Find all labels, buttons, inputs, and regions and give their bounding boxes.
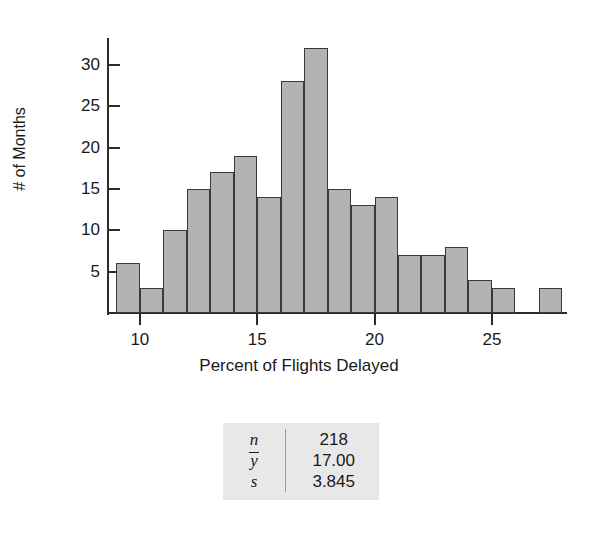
y-axis-tick-label: 25	[64, 97, 100, 114]
summary-value: 3.845	[286, 472, 379, 491]
histogram-bar	[116, 263, 139, 313]
histogram-bar	[468, 280, 491, 313]
y-axis-title: # of Months	[11, 89, 29, 209]
y-axis-tick-label: 10	[64, 221, 100, 238]
x-axis-tick	[491, 314, 493, 325]
summary-symbol: n	[223, 430, 285, 449]
histogram-bar	[351, 205, 374, 313]
histogram-bar	[234, 156, 257, 313]
histogram-bar	[304, 48, 327, 313]
histogram-figure: # of Months 51015202530 10152025 Percent…	[0, 0, 598, 540]
x-axis-title: Percent of Flights Delayed	[0, 356, 598, 376]
histogram-bar	[398, 255, 421, 313]
x-axis-tick-label: 10	[120, 330, 160, 349]
plot-area	[107, 40, 567, 313]
x-axis-tick-label: 20	[355, 330, 395, 349]
histogram-bar	[375, 197, 398, 313]
summary-symbol: y	[223, 451, 285, 470]
x-axis-tick	[256, 314, 258, 325]
summary-row: n218	[223, 429, 379, 450]
x-axis-tick-label: 25	[472, 330, 512, 349]
summary-value: 218	[286, 430, 379, 449]
histogram-bar	[257, 197, 280, 313]
y-axis-tick-label: 30	[64, 56, 100, 73]
histogram-bar	[539, 288, 562, 313]
y-axis-tick-label: 5	[64, 263, 100, 280]
histogram-bar	[328, 189, 351, 313]
x-axis-tick	[139, 314, 141, 325]
histogram-bar	[163, 230, 186, 313]
summary-row: y17.00	[223, 450, 379, 471]
summary-value: 17.00	[286, 451, 379, 470]
histogram-bar	[492, 288, 515, 313]
histogram-bar	[140, 288, 163, 313]
x-axis-tick	[374, 314, 376, 325]
summary-statistics-table: n218y17.00s3.845	[223, 423, 379, 500]
y-axis-tick-label: 20	[64, 139, 100, 156]
summary-symbol: s	[223, 472, 285, 491]
summary-row: s3.845	[223, 471, 379, 492]
y-axis-tick-label: 15	[64, 180, 100, 197]
histogram-bar	[421, 255, 444, 313]
histogram-bar	[445, 247, 468, 313]
histogram-bar	[210, 172, 233, 313]
x-axis-tick-label: 15	[237, 330, 277, 349]
histogram-bar	[187, 189, 210, 313]
overbar-mark	[249, 452, 259, 453]
histogram-bar	[281, 81, 304, 313]
